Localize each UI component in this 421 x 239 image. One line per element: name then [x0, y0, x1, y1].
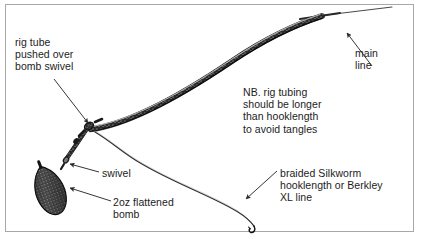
- bomb-arrow: [70, 188, 111, 201]
- flattened-bomb: [25, 157, 72, 220]
- label-swivel: swivel: [102, 167, 131, 179]
- label-braided: braided Silkworm hooklength or Berkley X…: [280, 167, 383, 204]
- swivel-arrow: [70, 164, 99, 172]
- label-bomb: 2oz flattened bomb: [113, 196, 174, 220]
- hook-icon: [249, 226, 255, 232]
- label-rig-tube: rig tube pushed over bomb swivel: [15, 36, 73, 73]
- label-note: NB. rig tubing should be longer than hoo…: [243, 86, 321, 135]
- label-main-line: main line: [355, 47, 378, 71]
- rig-diagram-figure: rig tube pushed over bomb swivel NB. rig…: [0, 0, 421, 239]
- rig-tube-arrow: [54, 79, 88, 123]
- braided-arrow: [246, 171, 277, 199]
